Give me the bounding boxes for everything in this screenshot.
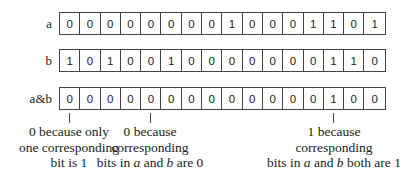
annotation-text: bits in	[97, 155, 134, 170]
bit-cell: 0	[161, 13, 181, 34]
bit-cell: 0	[364, 50, 384, 71]
annotation-bit-4: 0 because corresponding bits in a and b …	[97, 124, 204, 171]
annotation-line: 0 because	[97, 124, 204, 140]
bit-cell: 0	[80, 88, 100, 109]
bit-cell: 0	[263, 13, 283, 34]
bit-cell: 1	[304, 13, 324, 34]
bit-cell: 0	[243, 13, 263, 34]
bit-cell: 0	[283, 13, 303, 34]
bit-cell: 1	[222, 13, 242, 34]
bit-cell: 0	[202, 88, 222, 109]
bit-cell: 0	[101, 88, 121, 109]
bit-cell: 0	[263, 88, 283, 109]
annotation-text: and	[140, 155, 166, 170]
bit-cell: 1	[324, 13, 344, 34]
annotation-text: and	[311, 155, 337, 170]
bit-cell: 0	[182, 50, 202, 71]
row-label-b: b	[2, 49, 52, 72]
bit-cell: 0	[141, 88, 161, 109]
bit-cell: 0	[101, 13, 121, 34]
bit-cell: 0	[283, 88, 303, 109]
bit-cell: 1	[161, 50, 181, 71]
bit-cell: 0	[60, 88, 80, 109]
bit-cell: 0	[80, 13, 100, 34]
row-label-a-and-b: a&b	[2, 87, 52, 110]
pointer-tick-bit-4	[150, 113, 151, 123]
bit-cell: 0	[283, 50, 303, 71]
bit-cell: 0	[222, 88, 242, 109]
register-a-and-b: 0 0 0 0 0 0 0 0 0 0 0 0 0 1 0 0	[59, 87, 386, 110]
bit-cell: 0	[304, 88, 324, 109]
bit-cell: 0	[60, 13, 80, 34]
register-b: 1 0 1 0 0 1 0 0 0 0 0 0 0 1 1 0	[59, 49, 386, 72]
bit-cell: 0	[141, 50, 161, 71]
annotation-text: both are 1	[344, 155, 401, 170]
bit-cell: 0	[161, 88, 181, 109]
bit-cell: 0	[344, 88, 364, 109]
bit-cell: 0	[141, 13, 161, 34]
bit-cell: 0	[121, 13, 141, 34]
annotation-text: are 0	[173, 155, 203, 170]
annotation-line: 1 because	[267, 124, 401, 140]
bit-cell: 1	[324, 88, 344, 109]
bit-cell: 0	[364, 88, 384, 109]
bit-cell: 0	[243, 88, 263, 109]
annotation-line: corresponding	[267, 140, 401, 156]
variable-a: a	[304, 155, 311, 170]
bit-cell: 0	[304, 50, 324, 71]
bit-cell: 0	[263, 50, 283, 71]
bit-cell: 1	[60, 50, 80, 71]
pointer-tick-bit-0	[69, 113, 70, 123]
variable-a: a	[134, 155, 141, 170]
bit-cell: 1	[364, 13, 384, 34]
annotation-text: bits in	[267, 155, 304, 170]
bit-cell: 0	[121, 88, 141, 109]
bit-cell: 0	[202, 50, 222, 71]
bit-cell: 1	[101, 50, 121, 71]
variable-b: b	[167, 155, 174, 170]
pointer-tick-bit-13	[333, 113, 334, 123]
annotation-bit-13: 1 because corresponding bits in a and b …	[267, 124, 401, 171]
bit-cell: 0	[243, 50, 263, 71]
bit-cell: 0	[121, 50, 141, 71]
bit-cell: 0	[182, 88, 202, 109]
bit-cell: 0	[344, 13, 364, 34]
annotation-line: corresponding	[97, 140, 204, 156]
bit-cell: 1	[344, 50, 364, 71]
register-a: 0 0 0 0 0 0 0 0 1 0 0 0 1 1 0 1	[59, 12, 386, 35]
bit-cell: 0	[182, 13, 202, 34]
variable-b: b	[337, 155, 344, 170]
annotation-line: bits in a and b both are 1	[267, 155, 401, 171]
annotation-line: bits in a and b are 0	[97, 155, 204, 171]
row-label-a: a	[2, 12, 52, 35]
bit-cell: 0	[80, 50, 100, 71]
bit-cell: 0	[222, 50, 242, 71]
bit-cell: 1	[324, 50, 344, 71]
bit-cell: 0	[202, 13, 222, 34]
